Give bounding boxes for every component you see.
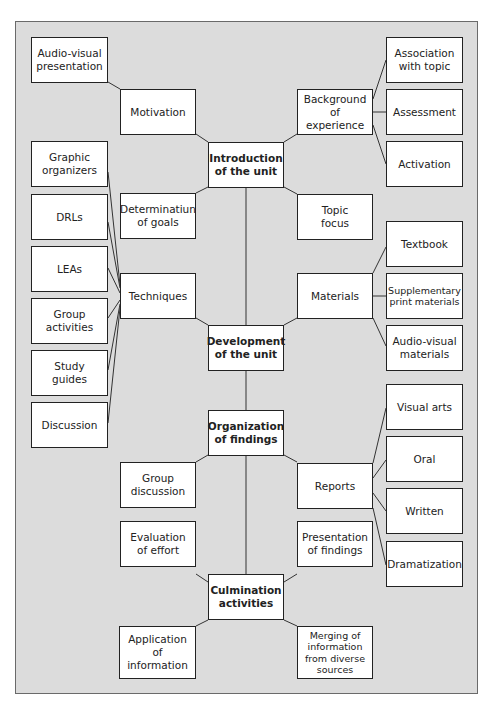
node-visual-arts: Visual arts bbox=[386, 384, 463, 430]
node-motivation: Motivation bbox=[120, 89, 196, 135]
node-topic-focus: Topic focus bbox=[297, 194, 373, 240]
node-activation: Activation bbox=[386, 141, 463, 187]
node-merging-of-information: Merging of information from diverse sour… bbox=[297, 626, 373, 679]
node-written: Written bbox=[386, 488, 463, 534]
node-introduction-of-the-unit: Introduction of the unit bbox=[208, 142, 284, 188]
node-materials: Materials bbox=[297, 273, 373, 319]
node-development-of-the-unit: Development of the unit bbox=[208, 325, 284, 371]
node-background-of-experience: Background of experience bbox=[297, 89, 373, 135]
node-organization-of-findings: Organization of findings bbox=[208, 410, 284, 456]
node-drls: DRLs bbox=[31, 194, 108, 240]
node-dramatization: Dramatization bbox=[386, 541, 463, 587]
node-audio-visual-materials: Audio-visual materials bbox=[386, 325, 463, 371]
node-supplementary-print-materials: Supplementary print materials bbox=[386, 273, 463, 319]
node-audio-visual-presentation: Audio-visual presentation bbox=[31, 37, 108, 83]
node-oral: Oral bbox=[386, 436, 463, 482]
node-reports: Reports bbox=[297, 463, 373, 509]
node-graphic-organizers: Graphic organizers bbox=[31, 141, 108, 187]
node-group-discussion: Group discussion bbox=[120, 462, 196, 508]
node-presentation-of-findings: Presentation of findings bbox=[297, 521, 373, 567]
node-textbook: Textbook bbox=[386, 221, 463, 267]
node-association-with-topic: Association with topic bbox=[386, 37, 463, 83]
node-leas: LEAs bbox=[31, 246, 108, 292]
node-group-activities: Group activities bbox=[31, 298, 108, 344]
node-culmination-activities: Culmination activities bbox=[208, 574, 284, 620]
node-assessment: Assessment bbox=[386, 89, 463, 135]
node-discussion: Discussion bbox=[31, 402, 108, 448]
node-techniques: Techniques bbox=[120, 273, 196, 319]
node-application-of-information: Application of information bbox=[119, 626, 196, 679]
node-determination-of-goals: Determinatiun of goals bbox=[120, 193, 196, 239]
node-evaluation-of-effort: Evaluation of effort bbox=[120, 521, 196, 567]
node-study-guides: Study guides bbox=[31, 350, 108, 396]
